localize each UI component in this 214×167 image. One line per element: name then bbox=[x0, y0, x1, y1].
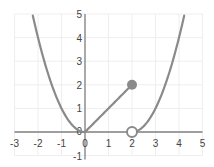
y-tick-label: -1 bbox=[73, 151, 82, 162]
piecewise-function-chart: -3-2-1012345-1012345 bbox=[0, 0, 214, 167]
x-tick-label: 0 bbox=[82, 138, 88, 149]
x-tick-label: 1 bbox=[106, 138, 112, 149]
y-tick-label: 1 bbox=[76, 103, 82, 114]
x-tick-label: -3 bbox=[10, 138, 19, 149]
y-tick-label: 5 bbox=[76, 9, 82, 20]
open-endpoint-marker bbox=[127, 127, 137, 137]
x-tick-label: -1 bbox=[57, 138, 66, 149]
closed-endpoint-marker bbox=[127, 80, 137, 90]
x-tick-label: 4 bbox=[176, 138, 182, 149]
x-tick-label: 2 bbox=[129, 138, 135, 149]
y-tick-label: 3 bbox=[76, 56, 82, 67]
x-tick-label: -2 bbox=[34, 138, 43, 149]
x-tick-label: 5 bbox=[200, 138, 206, 149]
y-tick-label: 4 bbox=[76, 33, 82, 44]
x-tick-label: 3 bbox=[153, 138, 159, 149]
function-curve-3 bbox=[136, 16, 184, 132]
y-tick-label: 2 bbox=[76, 80, 82, 91]
